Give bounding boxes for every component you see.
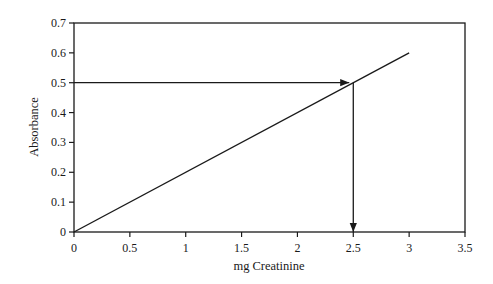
y-tick-label: 0 [60,225,66,239]
y-tick-label: 0.6 [51,46,66,60]
y-tick-label: 0.5 [51,76,66,90]
y-tick-label: 0.3 [51,135,66,149]
y-tick-label: 0.4 [51,106,66,120]
x-axis-ticks: 00.511.522.533.5 [71,232,473,255]
x-tick-label: 0.5 [122,241,137,255]
y-tick-label: 0.2 [51,165,66,179]
x-tick-label: 2.5 [346,241,361,255]
x-axis-title: mg Creatinine [233,259,305,273]
x-tick-label: 2 [294,241,300,255]
y-tick-label: 0.1 [51,195,66,209]
x-tick-label: 1 [183,241,189,255]
x-tick-label: 3.5 [458,241,473,255]
y-axis-title: Absorbance [27,97,41,157]
data-series [74,53,409,232]
absorbance-chart: 00.10.20.30.40.50.60.7 00.511.522.533.5 … [0,0,493,284]
x-tick-label: 1.5 [234,241,249,255]
x-tick-label: 3 [406,241,412,255]
y-tick-label: 0.7 [51,16,66,30]
standard-curve-line [74,53,409,232]
x-tick-label: 0 [71,241,77,255]
y-axis-ticks: 00.10.20.30.40.50.60.7 [51,16,74,239]
